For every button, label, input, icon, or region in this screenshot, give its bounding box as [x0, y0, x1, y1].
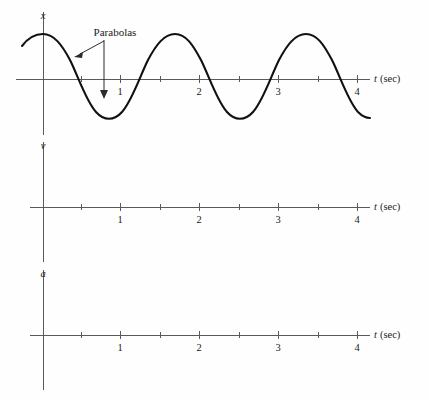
parabolas-leader-arrows: [74, 40, 108, 99]
position-tick-label-3: 3: [275, 86, 280, 97]
position-x-axis-label: t(sec): [374, 73, 401, 85]
position-tick-label-2: 2: [196, 86, 201, 97]
acceleration-y-axis-label: a: [40, 268, 45, 279]
position-y-axis-label: x: [40, 10, 46, 21]
position-x-axis-var: t: [374, 73, 378, 84]
velocity-y-axis-label: v: [41, 140, 46, 151]
parabolas-arrow-diagonal-line: [80, 41, 104, 54]
velocity-tick-label-2: 2: [196, 214, 201, 225]
velocity-tick-label-3: 3: [275, 214, 280, 225]
parabolas-arrow-vertical-head: [100, 90, 108, 99]
acceleration-tick-label-4: 4: [354, 342, 360, 353]
velocity-x-axis-unit: (sec): [380, 201, 401, 213]
position-tick-label-4: 4: [354, 86, 360, 97]
position-x-axis-unit: (sec): [380, 73, 401, 85]
acceleration-x-axis-unit: (sec): [380, 329, 401, 341]
velocity-tick-label-1: 1: [117, 214, 122, 225]
acceleration-tick-label-3: 3: [275, 342, 280, 353]
figure-svg: 1 2 3 4 x t(sec) Parabolas: [0, 0, 429, 400]
physics-kinematics-figure: 1 2 3 4 x t(sec) Parabolas: [0, 0, 429, 400]
velocity-x-axis-var: t: [374, 201, 378, 212]
velocity-tick-label-4: 4: [354, 214, 360, 225]
parabolas-annotation-label: Parabolas: [94, 26, 137, 38]
acceleration-tick-label-1: 1: [117, 342, 122, 353]
position-tick-label-1: 1: [117, 86, 122, 97]
acceleration-x-axis-var: t: [374, 329, 378, 340]
panel-position: 1 2 3 4 x t(sec) Parabolas: [16, 10, 401, 135]
velocity-x-axis-label: t(sec): [374, 201, 401, 213]
panel-velocity: 1 2 3 4 v t(sec): [30, 140, 401, 262]
acceleration-x-axis-label: t(sec): [374, 329, 401, 341]
parabolas-arrow-diagonal-head: [74, 52, 83, 58]
acceleration-tick-label-2: 2: [196, 342, 201, 353]
panel-acceleration: 1 2 3 4 a t(sec): [30, 268, 401, 390]
